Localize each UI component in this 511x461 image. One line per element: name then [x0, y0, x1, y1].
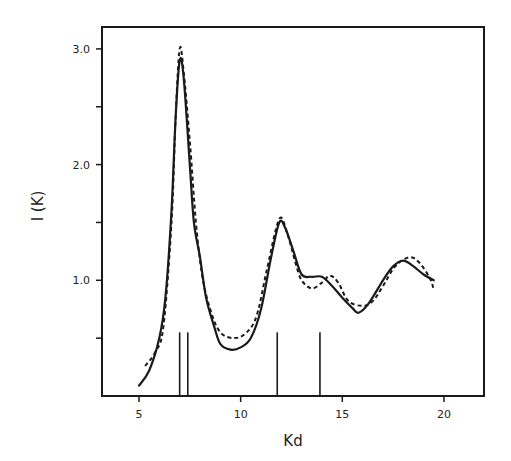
- y-tick-label: 3.0: [73, 43, 91, 56]
- x-tick-label: 15: [335, 408, 349, 421]
- dashed-curve: [145, 47, 434, 366]
- x-axis-ticks: 5101520: [136, 396, 451, 421]
- x-tick-label: 20: [437, 408, 451, 421]
- chart: 1.02.03.0 5101520 Kd I (K): [0, 0, 511, 461]
- solid-curve: [139, 58, 434, 386]
- y-axis-label: I (K): [29, 191, 47, 222]
- reference-sticks: [180, 332, 320, 396]
- x-tick-label: 5: [136, 408, 143, 421]
- y-axis-ticks: 1.02.03.0: [73, 43, 103, 338]
- y-tick-label: 2.0: [73, 159, 91, 172]
- y-tick-label: 1.0: [73, 274, 91, 287]
- x-axis-label: Kd: [283, 432, 302, 450]
- x-tick-label: 10: [234, 408, 248, 421]
